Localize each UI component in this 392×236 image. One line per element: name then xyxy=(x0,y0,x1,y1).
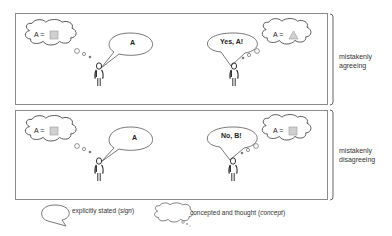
listener-utterance-1: Yes, A! xyxy=(220,38,243,45)
square-shape-icon xyxy=(289,127,297,135)
speaker-thought-cloud-1 xyxy=(25,20,76,46)
speaker-thought-text-1: A = xyxy=(34,31,44,38)
listener-utterance-2: No, B! xyxy=(221,132,242,139)
speaker-thought-text-2: A = xyxy=(34,127,44,134)
speech-bubble-2a xyxy=(101,127,153,162)
bracket-disagreeing xyxy=(330,110,333,200)
square-shape-icon xyxy=(50,31,58,39)
legend-speech-bubble-icon xyxy=(42,205,70,226)
speech-bubble-1a xyxy=(101,33,153,68)
listener-thought-text-1: A = xyxy=(273,31,283,38)
speaker-figure-2 xyxy=(95,158,103,181)
label-mistakenly-disagreeing: mistakenly disagreeing xyxy=(339,146,375,164)
thought-dots-1a xyxy=(75,49,91,58)
legend-speech-text: explicitly stated (sign) xyxy=(72,207,134,214)
square-shape-icon xyxy=(50,127,58,135)
diagram-graphics xyxy=(0,0,392,236)
listener-figure-2 xyxy=(229,158,237,181)
label-mistakenly-agreeing: mistakenly agreeing xyxy=(339,52,372,70)
speaker-thought-cloud-2 xyxy=(25,116,76,142)
speaker-figure-1 xyxy=(95,63,103,86)
listener-thought-text-2: A = xyxy=(273,127,283,134)
legend-thought-cloud-icon xyxy=(155,203,194,227)
speaker-utterance-1: A xyxy=(130,39,135,46)
listener-thought-cloud-1 xyxy=(262,19,311,45)
legend-thought-text: concepted and thought (concept) xyxy=(190,209,285,216)
bracket-agreeing xyxy=(330,14,333,105)
listener-thought-cloud-2 xyxy=(262,115,311,141)
thought-dots-2a xyxy=(75,144,91,153)
listener-figure-1 xyxy=(230,63,238,86)
speaker-utterance-2: A xyxy=(132,134,137,141)
